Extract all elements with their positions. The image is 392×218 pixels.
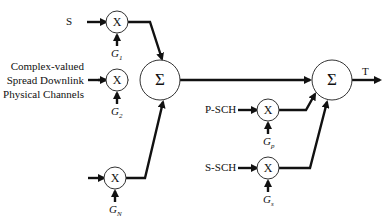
summer-1-symbol: Σ	[150, 71, 170, 88]
diagram-lines	[0, 0, 392, 218]
input-p-sch-label: P-SCH	[205, 104, 236, 115]
gain-gp-label: Gp	[263, 136, 274, 150]
gain-g1-label: G1	[111, 48, 122, 62]
multiplier-p-symbol: X	[262, 104, 274, 116]
complex-line-3: Physical Channels	[2, 87, 84, 101]
gain-gs-label: Gs	[263, 194, 274, 208]
multiplier-2-symbol: X	[111, 74, 123, 86]
gain-gn-label: GN	[109, 204, 122, 218]
multiplier-s-symbol: X	[262, 162, 274, 174]
input-s-sch-label: S-SCH	[205, 162, 236, 173]
output-t-label: T	[362, 66, 369, 77]
input-complex-label: Complex-valued Spread Downlink Physical …	[2, 59, 84, 101]
gain-g2-label: G2	[111, 106, 122, 120]
summer-2-symbol: Σ	[322, 71, 342, 88]
complex-line-1: Complex-valued	[2, 59, 84, 73]
input-s-label: S	[66, 16, 72, 27]
multiplier-n-symbol: X	[109, 172, 121, 184]
complex-line-2: Spread Downlink	[2, 73, 84, 87]
multiplier-1-symbol: X	[111, 16, 123, 28]
